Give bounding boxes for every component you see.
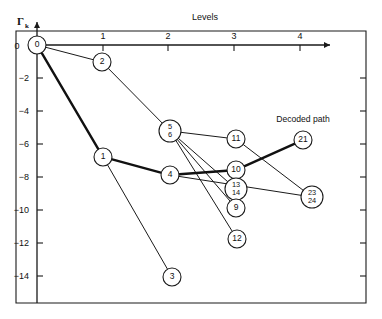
node-label: 0 xyxy=(35,39,40,49)
node-label: 14 xyxy=(232,188,240,197)
tree-nodes: 021356411101314912212324 xyxy=(28,36,323,286)
y-axis-title-subscript: k xyxy=(25,22,29,30)
decoded-path-label: Decoded path xyxy=(276,114,330,124)
tree-branch xyxy=(176,141,232,231)
annotations: Decoded path xyxy=(276,114,330,124)
node-label: 1 xyxy=(101,151,106,161)
decoding-tree-figure: 12340−2−4−6−8−10−12−14 02135641110131491… xyxy=(0,0,382,319)
decoded-path-branch xyxy=(179,171,226,175)
node-label: 9 xyxy=(234,202,239,212)
tree-node-13-14: 1314 xyxy=(225,178,247,200)
tree-branch xyxy=(109,69,162,123)
y-axis-title: Γ xyxy=(17,15,24,27)
x-tick-label: 1 xyxy=(100,31,105,41)
plot-border xyxy=(16,31,366,303)
node-label: 11 xyxy=(232,133,241,143)
x-tick-label: 4 xyxy=(297,31,302,41)
plot-frame xyxy=(16,31,366,303)
axis-ticks xyxy=(37,45,366,276)
node-label: 24 xyxy=(308,196,316,205)
tree-node-23-24: 2324 xyxy=(301,186,323,208)
y-tick-label: −8 xyxy=(19,172,29,182)
tree-node-10: 10 xyxy=(227,161,245,179)
y-tick-label: −14 xyxy=(14,271,29,281)
tree-node-21: 21 xyxy=(294,131,312,149)
x-axis-arrowhead xyxy=(324,42,330,48)
x-axis-title: Levels xyxy=(192,12,219,22)
tree-branches xyxy=(42,47,303,268)
y-tick-label: −10 xyxy=(14,205,29,215)
y-tick-label: 0 xyxy=(14,41,19,51)
tree-branch xyxy=(244,145,303,190)
y-tick-label: −6 xyxy=(19,139,29,149)
tree-branch xyxy=(181,132,226,137)
y-tick-label: −2 xyxy=(19,73,29,83)
decoded-path-branch xyxy=(245,144,295,166)
decoded-path-branch xyxy=(112,159,161,172)
tree-node-5-6: 56 xyxy=(159,120,181,142)
tree-node-0: 0 xyxy=(28,36,46,54)
tree-plot-canvas: 12340−2−4−6−8−10−12−14 02135641110131491… xyxy=(0,0,382,319)
node-label: 2 xyxy=(100,56,105,66)
node-label: 4 xyxy=(168,169,173,179)
y-tick-label: −12 xyxy=(14,238,29,248)
tree-node-4: 4 xyxy=(161,166,179,184)
node-label: 10 xyxy=(231,164,241,174)
node-label: 12 xyxy=(232,233,242,243)
node-label: 6 xyxy=(168,130,172,139)
node-label: 21 xyxy=(298,134,308,144)
node-label: 3 xyxy=(170,271,175,281)
tree-node-11: 11 xyxy=(227,130,245,148)
tree-node-9: 9 xyxy=(227,199,245,217)
tree-branch xyxy=(108,165,168,269)
decoded-path-branch xyxy=(42,53,98,149)
tree-node-1: 1 xyxy=(94,148,112,166)
tree-node-2: 2 xyxy=(93,53,111,71)
tree-node-3: 3 xyxy=(163,268,181,286)
x-tick-label: 2 xyxy=(165,31,170,41)
tree-node-12: 12 xyxy=(228,230,246,248)
x-tick-label: 3 xyxy=(231,31,236,41)
tree-branch xyxy=(46,47,93,59)
y-axis-arrowhead xyxy=(34,22,40,28)
axes xyxy=(34,22,330,303)
y-tick-label: −4 xyxy=(19,106,29,116)
